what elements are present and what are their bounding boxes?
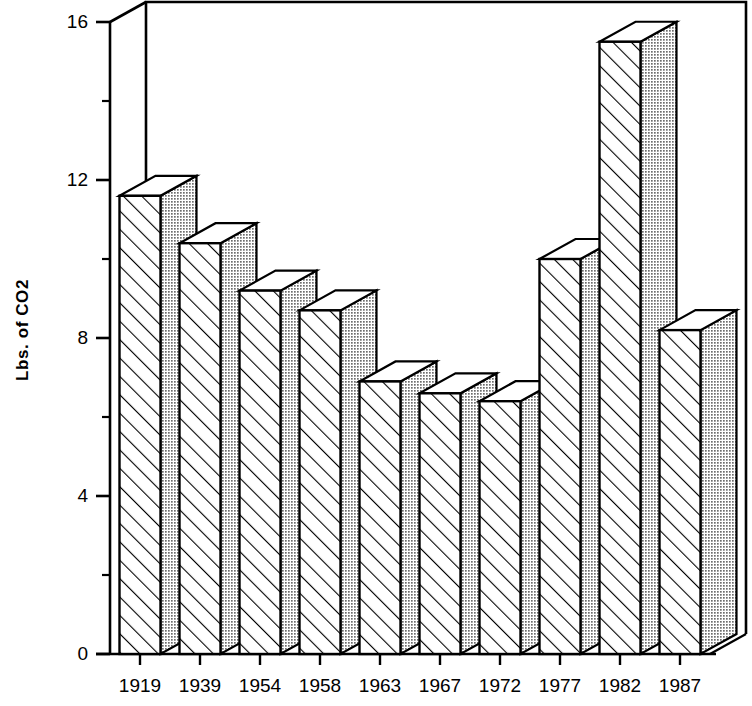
bar-chart: Lbs. of CO2 0481216 19191939195419581963… xyxy=(0,0,752,706)
plot-frame-depth-edge-topleft xyxy=(110,2,146,22)
bar-front-face xyxy=(600,42,641,654)
plot-area xyxy=(0,0,752,706)
bar-1987 xyxy=(660,310,737,654)
bar-front-face xyxy=(360,381,401,654)
bar-front-face xyxy=(540,259,581,654)
bar-front-face xyxy=(420,393,461,654)
bar-front-face xyxy=(660,330,701,654)
bar-front-face xyxy=(240,291,281,654)
bar-front-face xyxy=(180,243,221,654)
bar-front-face xyxy=(120,196,161,654)
bar-front-face xyxy=(300,310,341,654)
bar-side-face xyxy=(701,310,737,654)
bar-front-face xyxy=(480,401,521,654)
